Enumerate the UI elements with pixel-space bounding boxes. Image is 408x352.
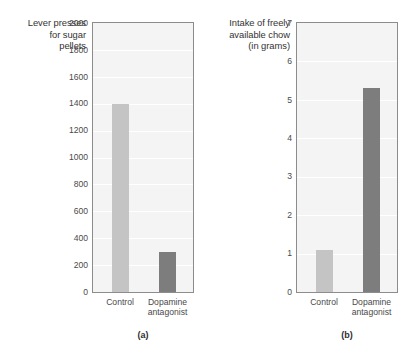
gridline-a bbox=[93, 265, 193, 266]
y-tick-a-1400: 1400 bbox=[58, 99, 88, 108]
gridline-a bbox=[93, 158, 193, 159]
y-tick-b-4: 4 bbox=[262, 134, 292, 143]
gridline-b bbox=[297, 61, 397, 62]
x-tick-b-dopamine-line-1: Dopamine bbox=[345, 297, 399, 307]
plot-area-a bbox=[92, 22, 194, 293]
y-tick-b-1: 1 bbox=[262, 249, 292, 258]
x-tick-a-dopamine-antagonist: Dopamine antagonist bbox=[141, 297, 195, 318]
panel-caption-b: (b) bbox=[296, 330, 398, 340]
panel-b: Intake of freely available chow (in gram… bbox=[204, 0, 408, 352]
gridline-a bbox=[93, 104, 193, 105]
panel-caption-a: (a) bbox=[92, 330, 194, 340]
y-tick-a-800: 800 bbox=[58, 180, 88, 189]
gridline-b bbox=[297, 254, 397, 255]
y-tick-a-2000: 2000 bbox=[58, 19, 88, 28]
y-tick-a-400: 400 bbox=[58, 234, 88, 243]
x-tick-b-dopamine-antagonist: Dopamine antagonist bbox=[345, 297, 399, 318]
gridline-a bbox=[93, 238, 193, 239]
bar-b-control bbox=[316, 250, 333, 292]
y-axis-ticks-a: 2000 1800 1600 1400 1200 1000 800 600 40… bbox=[56, 22, 88, 293]
y-tick-a-1200: 1200 bbox=[58, 126, 88, 135]
y-tick-a-200: 200 bbox=[58, 261, 88, 270]
gridline-a bbox=[93, 50, 193, 51]
y-tick-b-2: 2 bbox=[262, 211, 292, 220]
gridline-a bbox=[93, 77, 193, 78]
y-tick-b-5: 5 bbox=[262, 96, 292, 105]
gridline-b bbox=[297, 177, 397, 178]
x-tick-b-dopamine-line-2: antagonist bbox=[345, 307, 399, 317]
y-tick-b-6: 6 bbox=[262, 57, 292, 66]
gridline-a bbox=[93, 184, 193, 185]
gridline-a bbox=[93, 131, 193, 132]
x-tick-a-control: Control bbox=[93, 297, 147, 307]
plot-inner-a bbox=[93, 23, 193, 292]
y-tick-a-1800: 1800 bbox=[58, 46, 88, 55]
y-tick-a-600: 600 bbox=[58, 207, 88, 216]
y-tick-b-7: 7 bbox=[262, 19, 292, 28]
bar-a-control bbox=[112, 104, 129, 292]
y-tick-a-0: 0 bbox=[58, 288, 88, 297]
x-axis-ticks-a: Control Dopamine antagonist bbox=[92, 297, 194, 327]
x-tick-a-dopamine-line-1: Dopamine bbox=[141, 297, 195, 307]
plot-area-b bbox=[296, 22, 398, 293]
gridline-b bbox=[297, 215, 397, 216]
y-tick-b-0: 0 bbox=[262, 288, 292, 297]
x-axis-ticks-b: Control Dopamine antagonist bbox=[296, 297, 398, 327]
gridline-b bbox=[297, 100, 397, 101]
gridline-a bbox=[93, 211, 193, 212]
y-tick-a-1000: 1000 bbox=[58, 153, 88, 162]
x-tick-a-control-line-1: Control bbox=[93, 297, 147, 307]
gridline-b bbox=[297, 138, 397, 139]
bar-a-dopamine-antagonist bbox=[159, 252, 176, 292]
y-tick-a-1600: 1600 bbox=[58, 73, 88, 82]
panel-a: Lever presses for sugar pellets 2000 180… bbox=[0, 0, 204, 352]
y-axis-ticks-b: 7 6 5 4 3 2 1 0 bbox=[260, 22, 292, 293]
bar-b-dopamine-antagonist bbox=[363, 88, 380, 292]
x-tick-a-dopamine-line-2: antagonist bbox=[141, 307, 195, 317]
plot-inner-b bbox=[297, 23, 397, 292]
y-tick-b-3: 3 bbox=[262, 172, 292, 181]
figure-bar-charts: Lever presses for sugar pellets 2000 180… bbox=[0, 0, 408, 352]
x-tick-b-control-line-1: Control bbox=[297, 297, 351, 307]
x-tick-b-control: Control bbox=[297, 297, 351, 307]
